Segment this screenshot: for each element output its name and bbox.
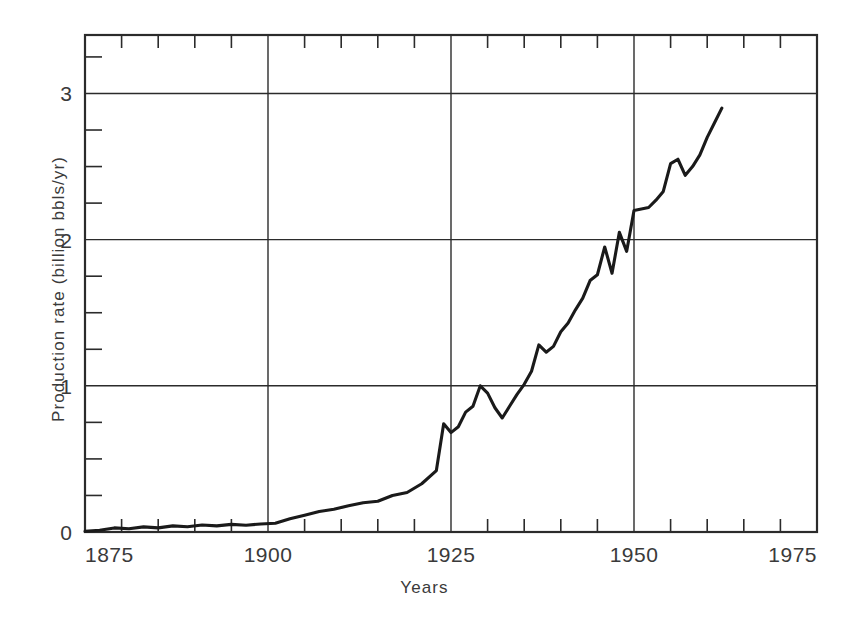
gridlines [85,35,817,532]
y-tick-label: 2 [60,229,72,252]
y-tick-label: 3 [60,82,72,105]
x-tick-label: 1900 [244,543,293,566]
plot-area: 187519001925195019750123 [0,0,849,623]
x-tick-label: 1950 [610,543,659,566]
data-series-line [85,108,722,531]
x-tick-label: 1975 [768,543,817,566]
chart-figure: Production rate (billion bbls/yr) Years … [0,0,849,623]
minor-ticks [85,35,780,532]
y-tick-label: 0 [60,521,72,544]
x-tick-label: 1925 [427,543,476,566]
y-tick-label: 1 [60,375,72,398]
tick-labels: 187519001925195019750123 [60,82,817,566]
x-tick-label: 1875 [85,543,134,566]
